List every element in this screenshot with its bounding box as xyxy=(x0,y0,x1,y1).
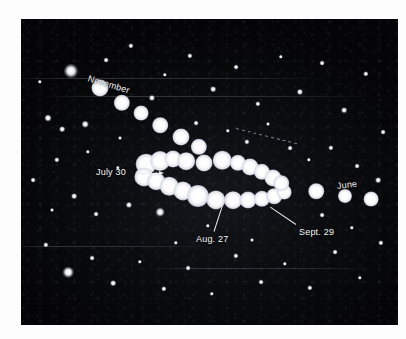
planet-position xyxy=(191,139,207,155)
planet-position xyxy=(277,185,292,200)
background-star xyxy=(355,164,360,169)
background-star xyxy=(138,260,142,264)
background-star xyxy=(210,292,214,296)
background-star xyxy=(307,158,311,162)
label-november: November xyxy=(87,74,131,95)
planet-position xyxy=(264,169,281,186)
planet-position xyxy=(147,172,165,190)
plate-streak xyxy=(40,96,377,97)
planet-position xyxy=(230,155,246,171)
background-star xyxy=(378,240,383,245)
background-star xyxy=(64,64,78,78)
background-star xyxy=(86,150,90,154)
label-july-30: July 30 xyxy=(96,168,126,177)
background-star xyxy=(31,178,36,183)
planet-position xyxy=(241,158,258,175)
background-star xyxy=(206,224,210,228)
background-star xyxy=(90,256,95,261)
background-star xyxy=(128,43,133,48)
background-star xyxy=(186,266,191,271)
background-star xyxy=(279,55,283,59)
background-star xyxy=(226,129,230,133)
background-star xyxy=(250,238,254,242)
planet-position xyxy=(254,191,270,207)
planet-position xyxy=(206,190,225,209)
background-star xyxy=(375,177,381,183)
background-star xyxy=(328,145,333,150)
aug-27-leader xyxy=(214,205,224,232)
july-30-leader-arrow-icon xyxy=(159,171,164,175)
planet-position xyxy=(114,95,130,111)
background-star xyxy=(163,73,167,77)
planet-position xyxy=(273,175,289,191)
planet-position xyxy=(239,191,256,208)
background-star xyxy=(71,193,77,199)
astrophotograph-plate: NovemberJuly 30Aug. 27Sept. 29June xyxy=(21,19,398,325)
planet-position xyxy=(213,151,232,170)
planet-position xyxy=(134,106,149,121)
sept-29-leader xyxy=(270,207,296,225)
plate-streak xyxy=(21,78,330,79)
background-star xyxy=(288,146,293,151)
planet-position xyxy=(177,152,195,170)
background-star xyxy=(63,267,74,278)
background-star xyxy=(194,121,199,126)
planet-position xyxy=(254,164,270,180)
background-star xyxy=(43,242,48,247)
planet-position xyxy=(338,189,352,203)
planet-position xyxy=(364,192,379,207)
background-star xyxy=(38,80,42,84)
background-star xyxy=(104,58,109,63)
background-star xyxy=(156,208,165,217)
background-star xyxy=(210,86,216,92)
background-star xyxy=(174,241,178,245)
background-star xyxy=(283,262,287,266)
planet-position xyxy=(266,188,282,204)
background-star xyxy=(161,286,166,291)
background-star xyxy=(320,61,325,66)
planet-position xyxy=(152,117,168,133)
label-june: June xyxy=(336,180,357,191)
planet-position xyxy=(172,128,189,145)
plate-streak xyxy=(150,268,377,269)
planet-position xyxy=(308,183,324,199)
planet-position xyxy=(136,154,157,175)
background-star xyxy=(381,130,386,135)
background-star xyxy=(320,213,325,218)
background-star xyxy=(149,95,155,101)
background-star xyxy=(333,250,338,255)
planet-position xyxy=(195,154,212,171)
background-star xyxy=(307,285,312,290)
july-30-leader xyxy=(137,173,159,174)
background-star xyxy=(59,126,65,132)
film-grain xyxy=(21,19,398,325)
planet-position xyxy=(150,151,170,171)
label-aug-27: Aug. 27 xyxy=(196,235,228,244)
planet-position xyxy=(134,167,153,186)
background-star xyxy=(259,280,264,285)
planet-position xyxy=(160,177,179,196)
figure-page: NovemberJuly 30Aug. 27Sept. 29June xyxy=(0,0,406,339)
background-star xyxy=(94,212,99,217)
background-star xyxy=(266,122,270,126)
planet-position xyxy=(173,181,192,200)
background-star xyxy=(255,101,260,106)
background-star xyxy=(234,65,239,70)
background-star xyxy=(126,202,132,208)
background-star xyxy=(54,157,59,162)
background-star xyxy=(44,114,51,121)
background-star xyxy=(341,107,347,113)
background-star xyxy=(350,226,354,230)
ecliptic-dashes-icon xyxy=(236,128,300,145)
background-star xyxy=(358,276,362,280)
background-star xyxy=(297,89,303,95)
planet-position xyxy=(164,150,181,167)
background-star xyxy=(82,121,89,128)
background-star xyxy=(110,280,116,286)
planet-position xyxy=(224,191,242,209)
background-star xyxy=(233,253,238,258)
background-star xyxy=(244,139,249,144)
plate-streak xyxy=(21,246,210,247)
background-star xyxy=(118,136,122,140)
background-star xyxy=(50,208,54,212)
